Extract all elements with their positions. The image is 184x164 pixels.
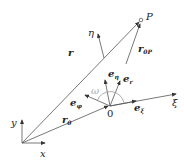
e-phi-label: eφ [70, 98, 82, 109]
r-vector-label: r [68, 48, 73, 58]
e-eta-label: eη [108, 69, 119, 80]
coordinate-diagram: P η r r0P eη er ω eφ 0 eξ ξ y r0 x [0, 0, 184, 164]
r0-vector-label: r0 [62, 115, 71, 126]
e-r-label: er [123, 74, 133, 85]
diagram-lines [0, 0, 184, 164]
xi-axis-label: ξ [172, 98, 178, 108]
omega-angle-label: ω [91, 86, 99, 96]
eta-axis-label: η [88, 28, 94, 38]
r0P-vector-label: r0P [138, 44, 152, 55]
x-axis-label: x [40, 149, 46, 159]
point-P-label: P [146, 12, 153, 22]
e-xi-label: eξ [134, 103, 144, 114]
y-axis-label: y [11, 118, 17, 128]
origin-0-label: 0 [107, 109, 113, 119]
